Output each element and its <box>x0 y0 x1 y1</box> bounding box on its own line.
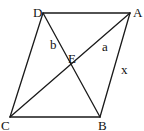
side-CD <box>10 13 43 117</box>
vertex-label-B: B <box>98 118 107 131</box>
vertex-label-A: A <box>133 5 143 20</box>
rhombus-diagram: D A B C E b a x <box>0 0 144 131</box>
vertex-label-C: C <box>1 118 10 131</box>
segment-label-b: b <box>50 37 57 52</box>
intersection-label-E: E <box>68 51 76 66</box>
segment-label-a: a <box>102 39 108 54</box>
segment-label-x: x <box>121 62 128 77</box>
vertex-label-D: D <box>33 5 42 20</box>
